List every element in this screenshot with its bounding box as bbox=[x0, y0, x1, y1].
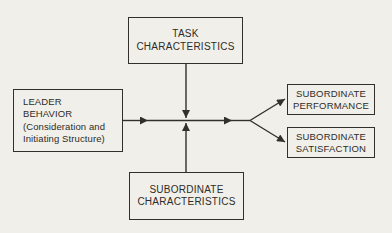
node-label-line: BEHAVIOR bbox=[23, 108, 116, 120]
node-label-line: PERFORMANCE bbox=[293, 100, 369, 112]
arrow-to-performance bbox=[250, 99, 285, 121]
node-label-line: LEADER bbox=[23, 96, 116, 108]
node-label-line: CHARACTERISTICS bbox=[136, 41, 234, 54]
node-label-line: SUBORDINATE bbox=[296, 131, 366, 143]
node-label-line: SATISFACTION bbox=[296, 143, 366, 155]
node-label-line: CHARACTERISTICS bbox=[137, 196, 235, 209]
diagram-canvas: TASK CHARACTERISTICS LEADER BEHAVIOR (Co… bbox=[0, 0, 392, 233]
node-label-line: SUBORDINATE bbox=[149, 184, 223, 197]
node-label-line: TASK bbox=[172, 28, 198, 41]
node-label-line: (Consideration and bbox=[23, 121, 116, 133]
node-subordinate-satisfaction: SUBORDINATE SATISFACTION bbox=[287, 127, 375, 158]
node-task-characteristics: TASK CHARACTERISTICS bbox=[128, 17, 243, 64]
arrow-to-satisfaction bbox=[250, 121, 285, 143]
node-leader-behavior: LEADER BEHAVIOR (Consideration and Initi… bbox=[13, 89, 123, 152]
node-subordinate-performance: SUBORDINATE PERFORMANCE bbox=[287, 84, 375, 115]
node-subordinate-characteristics: SUBORDINATE CHARACTERISTICS bbox=[129, 172, 244, 220]
node-label-line: Initiating Structure) bbox=[23, 133, 116, 145]
node-label-line: SUBORDINATE bbox=[296, 88, 366, 100]
